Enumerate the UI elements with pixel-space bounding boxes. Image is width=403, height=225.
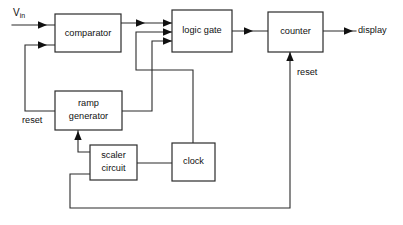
wire-scaler-to-ramp-generator [74, 130, 90, 152]
svg-text:Vin: Vin [13, 7, 25, 19]
wire-counter-to-display [323, 27, 356, 34]
block-scaler-circuit-label-line2: circuit [102, 163, 126, 173]
block-logic-gate-label: logic gate [182, 25, 221, 35]
wire-comparator-to-logic-gate [121, 19, 172, 26]
block-comparator-label: comparator [65, 28, 111, 38]
wire-ramp-generator-reset-to-comparator [25, 41, 55, 111]
wire-ramp-generator-to-logic-gate [122, 37, 172, 111]
reset-left-label: reset [22, 115, 43, 125]
block-scaler-circuit-label-line1: scaler [101, 150, 126, 160]
reset-right-label: reset [297, 67, 318, 77]
block-ramp-generator[interactable]: ramp generator [55, 91, 122, 130]
block-ramp-generator-label-line2: generator [69, 111, 108, 121]
wire-logic-gate-to-counter [232, 27, 268, 34]
block-clock[interactable]: clock [172, 143, 215, 181]
block-scaler-circuit[interactable]: scaler circuit [90, 145, 137, 180]
block-counter[interactable]: counter [268, 12, 323, 52]
block-ramp-generator-label-line1: ramp [78, 98, 99, 108]
block-clock-label: clock [183, 156, 204, 166]
output-display-label: display [358, 25, 387, 35]
block-logic-gate[interactable]: logic gate [172, 10, 232, 52]
block-counter-label: counter [280, 26, 311, 36]
block-comparator[interactable]: comparator [55, 14, 121, 52]
block-diagram-canvas: comparator logic gate counter ramp gener… [0, 0, 403, 225]
input-signal-label: Vin [13, 7, 25, 19]
input-signal-subscript: in [20, 12, 26, 19]
wire-vin-to-comparator [12, 21, 55, 28]
block-diagram-svg: comparator logic gate counter ramp gener… [0, 0, 403, 225]
